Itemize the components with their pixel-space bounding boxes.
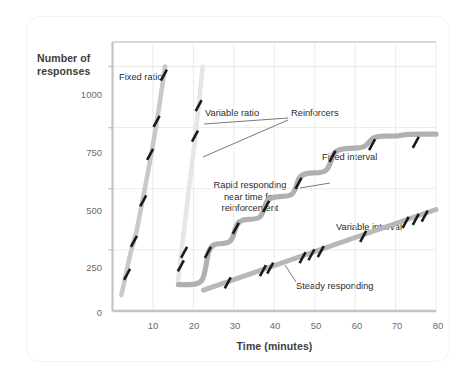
chart-page: Number of responses Time (minutes) 1000 …	[0, 0, 470, 377]
chart-plot	[0, 0, 470, 377]
series-curves	[121, 66, 436, 295]
reinforcer-marks	[124, 70, 428, 289]
axis-lines	[109, 42, 437, 311]
